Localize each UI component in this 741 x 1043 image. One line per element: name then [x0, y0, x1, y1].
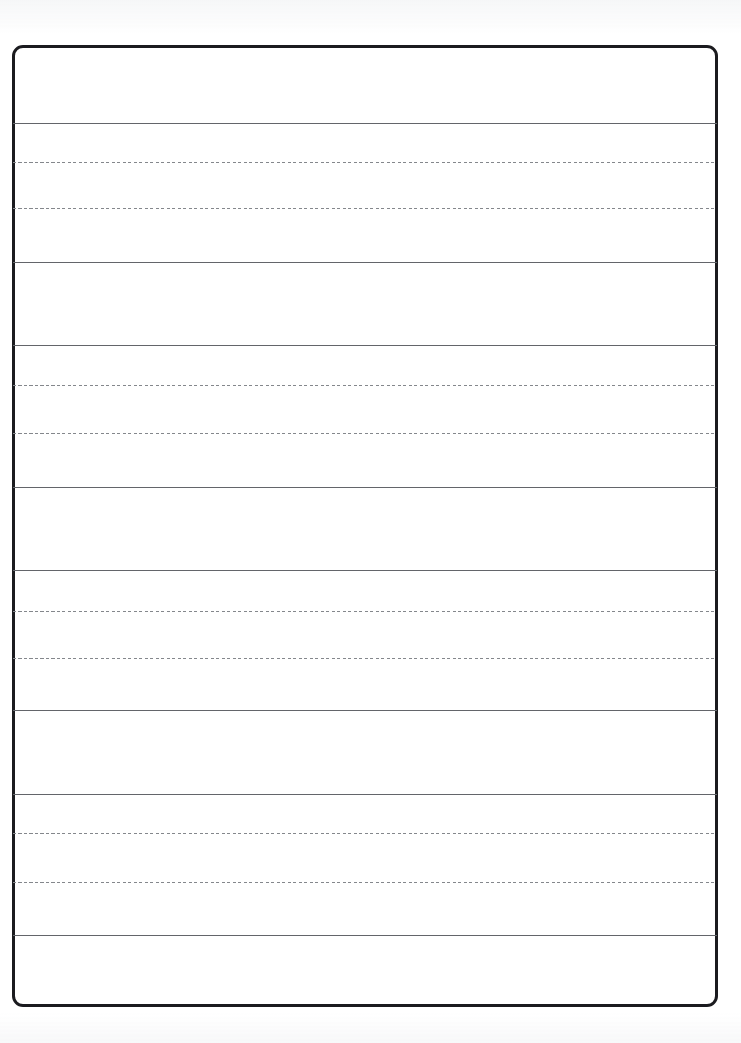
- page-canvas: [0, 0, 741, 1043]
- worksheet-border-frame: [12, 45, 718, 1007]
